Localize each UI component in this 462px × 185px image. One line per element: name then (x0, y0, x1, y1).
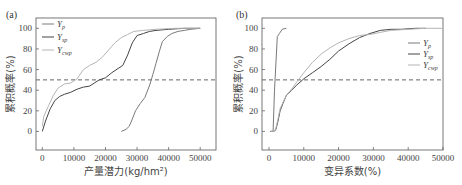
x-tick-label: 10000 (63, 153, 86, 163)
x-tick-label: 30000 (362, 153, 385, 163)
chart-panel-a: 01000020000300004000050000020406080100产量… (4, 9, 216, 177)
x-tick-label: 40000 (157, 153, 180, 163)
y-tick-label: 0 (28, 126, 33, 136)
series-line-y-cwp (42, 28, 200, 126)
y-tick-label: 20 (23, 106, 33, 116)
x-tick-label: 0 (40, 153, 45, 163)
y-tick-label: 100 (245, 23, 259, 33)
x-tick-label: 0 (267, 153, 272, 163)
chart-panel-b: 01000020000300004000050000020406080100变异… (232, 9, 455, 177)
legend-label: Ycwp (57, 45, 72, 56)
panel-label: (b) (236, 9, 248, 21)
x-tick-label: 20000 (327, 153, 350, 163)
x-axis-label: 变异系数(%) (324, 165, 381, 177)
y-tick-label: 40 (249, 85, 259, 95)
x-tick-label: 50000 (189, 153, 212, 163)
y-tick-label: 0 (254, 126, 259, 136)
legend-label: Ysp (423, 49, 433, 60)
series-line-y-p (121, 28, 200, 131)
x-tick-label: 50000 (432, 153, 455, 163)
x-axis-label: 产量潜力(kg/hm²) (84, 165, 167, 177)
chart-figure: 01000020000300004000050000020406080100产量… (0, 0, 462, 185)
y-tick-label: 80 (249, 44, 259, 54)
legend-label: Yp (423, 38, 431, 49)
y-tick-label: 60 (249, 65, 259, 75)
y-axis-label: 累积概率(%) (4, 55, 16, 112)
y-tick-label: 100 (19, 23, 33, 33)
x-tick-label: 20000 (94, 153, 117, 163)
legend-label: Ysp (57, 32, 67, 43)
x-tick-label: 30000 (126, 153, 149, 163)
y-tick-label: 60 (23, 65, 33, 75)
legend-label: Ycwp (423, 60, 438, 71)
y-tick-label: 80 (23, 44, 33, 54)
panel-label: (a) (6, 9, 17, 21)
legend-label: Yp (57, 19, 65, 30)
x-tick-label: 40000 (397, 153, 420, 163)
y-tick-label: 20 (249, 106, 259, 116)
y-tick-label: 40 (23, 85, 33, 95)
x-tick-label: 10000 (293, 153, 316, 163)
y-axis-label: 累积概率(%) (232, 55, 244, 112)
